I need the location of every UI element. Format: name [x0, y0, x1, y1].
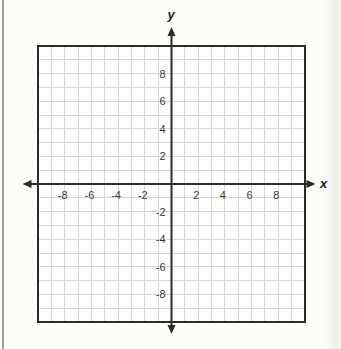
coordinate-plane: -8-6-4-224688642-2-4-6-8 x y [0, 0, 341, 349]
x-tick-label: 8 [273, 189, 279, 201]
y-tick-label: 2 [159, 150, 165, 162]
x-axis-label: x [319, 176, 328, 191]
y-tick-label: 6 [159, 95, 165, 107]
y-tick-label: 8 [159, 68, 165, 80]
coordinate-grid-svg: -8-6-4-224688642-2-4-6-8 x y [0, 0, 341, 349]
x-tick-label: -2 [138, 189, 148, 201]
y-tick-label: -2 [156, 206, 166, 218]
y-tick-label: -6 [156, 261, 166, 273]
x-tick-label: 6 [247, 189, 253, 201]
y-axis-label: y [166, 7, 175, 22]
worksheet-page: -8-6-4-224688642-2-4-6-8 x y [0, 0, 341, 349]
x-tick-label: 4 [220, 189, 226, 201]
y-axis-down-arrow-icon [168, 325, 176, 334]
x-axis-right-arrow-icon [307, 180, 316, 188]
y-tick-label: -4 [156, 233, 166, 245]
x-tick-label: -4 [111, 189, 121, 201]
x-tick-label: -6 [85, 189, 95, 201]
y-tick-label: 4 [159, 123, 165, 135]
x-tick-label: -8 [58, 189, 68, 201]
y-axis-up-arrow-icon [168, 27, 176, 36]
x-axis-left-arrow-icon [23, 180, 32, 188]
plot-root: -8-6-4-224688642-2-4-6-8 [23, 27, 316, 334]
y-tick-label: -8 [156, 288, 166, 300]
x-tick-label: 2 [193, 189, 199, 201]
